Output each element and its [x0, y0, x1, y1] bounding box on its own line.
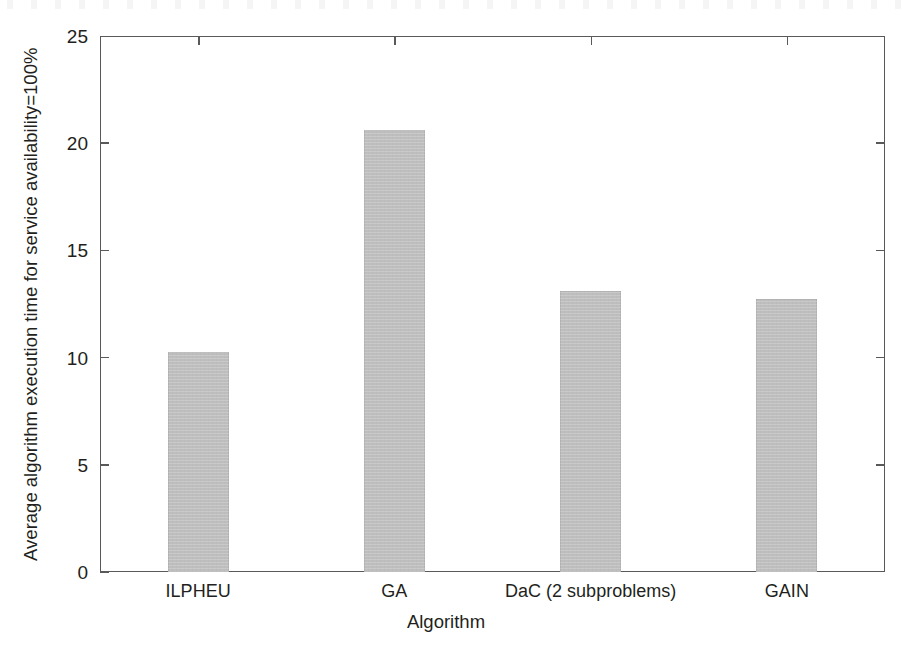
x-tick-label-ga: GA	[381, 582, 407, 600]
y-tick-right-5	[876, 464, 885, 466]
y-tick-left-5	[100, 464, 109, 466]
y-tick-right-20	[876, 142, 885, 144]
scan-artifact	[0, 0, 902, 9]
y-tick-label-5: 5	[77, 456, 88, 475]
y-tick-label-20: 20	[67, 134, 88, 153]
y-tick-left-10	[100, 357, 109, 359]
bar-ga	[364, 130, 425, 572]
plot-area	[100, 36, 885, 572]
y-tick-label-column: 25 20 15 10 5 0	[46, 0, 88, 648]
y-tick-left-15	[100, 250, 109, 252]
bar-gain	[756, 299, 817, 572]
y-tick-left-0	[100, 571, 109, 573]
figure: 25 20 15 10 5 0 Average algorithm execut…	[0, 0, 902, 648]
x-tick-label-gain: GAIN	[765, 582, 809, 600]
x-tick-label-dac: DaC (2 subproblems)	[505, 582, 676, 600]
x-tick-top-1	[198, 36, 200, 45]
y-tick-left-20	[100, 142, 109, 144]
x-axis-title: Algorithm	[0, 613, 902, 632]
bar-dac	[560, 291, 621, 572]
x-axis-title-text: Algorithm	[407, 613, 485, 632]
x-tick-top-4	[787, 36, 789, 45]
x-tick-top-3	[591, 36, 593, 45]
y-tick-label-0: 0	[77, 563, 88, 582]
bar-ilpheu	[168, 352, 229, 572]
x-tick-label-ilpheu: ILPHEU	[166, 582, 231, 600]
x-tick-top-2	[394, 36, 396, 45]
y-tick-right-10	[876, 357, 885, 359]
y-tick-label-15: 15	[67, 241, 88, 260]
y-axis-title: Average algorithm execution time for ser…	[22, 44, 41, 564]
y-tick-label-10: 10	[67, 349, 88, 368]
y-tick-label-25: 25	[67, 27, 88, 46]
y-tick-right-15	[876, 250, 885, 252]
